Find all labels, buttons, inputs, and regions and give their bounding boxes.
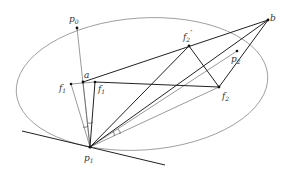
angle-mark-right-1 (113, 131, 114, 136)
segment-p1-b (90, 20, 268, 147)
point-p2 (236, 50, 239, 53)
point-f1p (94, 81, 97, 84)
label-p1: p1 (84, 153, 94, 164)
segment-p1-p2 (90, 51, 237, 147)
segment-p1-f2p (90, 46, 189, 147)
point-f1 (70, 83, 73, 86)
label-f2-prime: f2′ (182, 29, 192, 43)
label-f2: f2 (221, 91, 229, 102)
ellipse-reflection-diagram: p0 p1 p2 a b f1 f1′ f2 f2′ (0, 0, 288, 173)
label-p0: p0 (69, 14, 79, 25)
label-b: b (270, 13, 276, 23)
segment-f2-b (219, 20, 268, 87)
thin-segments (71, 28, 237, 147)
thick-segments (83, 20, 268, 147)
label-p2: p2 (231, 54, 241, 65)
segment-p1-a (83, 82, 90, 147)
label-f1-prime: f1′ (97, 81, 107, 95)
label-a: a (84, 70, 89, 80)
point-f2p (188, 45, 191, 48)
point-f2 (218, 86, 221, 89)
segment-p1-f1 (71, 84, 90, 147)
point-p1 (88, 145, 91, 148)
label-f1: f1 (58, 83, 66, 94)
segment-a-b (83, 20, 268, 82)
segment-f2p-f2 (189, 46, 219, 87)
point-a (82, 81, 85, 84)
segment-f1p-f2 (95, 82, 219, 87)
segment-p1-f2 (90, 87, 219, 147)
point-b (267, 19, 270, 22)
point-p0 (76, 27, 79, 30)
segment-p1-f1p (90, 82, 95, 147)
